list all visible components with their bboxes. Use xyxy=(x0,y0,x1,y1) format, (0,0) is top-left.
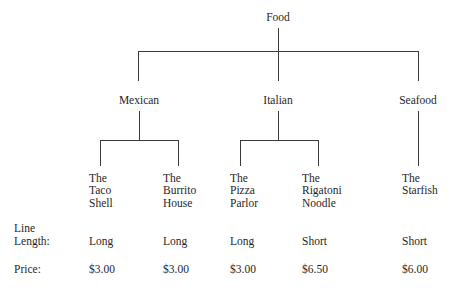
leaf-line: The xyxy=(230,172,258,184)
leaf-line: Burrito xyxy=(163,184,196,196)
leaf-line: House xyxy=(163,197,196,209)
row-label-line-length-line1: Line xyxy=(14,222,35,235)
leaf-line: Pizza xyxy=(230,184,258,196)
leaf-line: Shell xyxy=(89,197,113,209)
leaf-line: The xyxy=(402,172,438,184)
row-label-price: Price: xyxy=(14,263,41,276)
tree-node-mexican: Mexican xyxy=(119,95,159,107)
cell-line-length: Long xyxy=(230,235,254,248)
leaf-line: Noodle xyxy=(302,197,342,209)
cell-price: $3.00 xyxy=(163,263,189,276)
connector-drop-pizza-parlor xyxy=(240,140,241,166)
leaf-node-burrito-house: The Burrito House xyxy=(163,172,196,209)
leaf-line: The xyxy=(302,172,342,184)
cell-line-length: Long xyxy=(163,235,187,248)
leaf-line: Parlor xyxy=(230,197,258,209)
cell-price: $6.00 xyxy=(402,263,428,276)
connector-italian-bus xyxy=(240,140,319,141)
connector-mexican-stem xyxy=(139,111,140,141)
connector-drop-seafood xyxy=(418,51,419,81)
connector-italian-stem xyxy=(278,111,279,141)
cell-price: $6.50 xyxy=(302,263,328,276)
leaf-line: Starfish xyxy=(402,184,438,196)
connector-mexican-bus xyxy=(100,140,179,141)
leaf-line: Rigatoni xyxy=(302,184,342,196)
cell-line-length: Long xyxy=(89,235,113,248)
connector-drop-taco-shell xyxy=(100,140,101,166)
tree-node-root: Food xyxy=(266,12,290,24)
row-label-line-length-line2: Length: xyxy=(14,235,50,248)
connector-root-stem xyxy=(278,28,279,52)
diagram-canvas: Food Mexican Italian Seafood The Taco Sh… xyxy=(0,0,457,296)
connector-drop-mexican xyxy=(138,51,139,81)
connector-drop-italian xyxy=(278,51,279,81)
tree-node-italian: Italian xyxy=(263,95,292,107)
tree-node-seafood: Seafood xyxy=(399,95,437,107)
connector-drop-burrito-house xyxy=(178,140,179,166)
leaf-node-starfish: The Starfish xyxy=(402,172,438,197)
connector-drop-rigatoni-noodle xyxy=(318,140,319,166)
leaf-line: The xyxy=(89,172,113,184)
cell-line-length: Short xyxy=(402,235,427,248)
connector-seafood-stem xyxy=(418,111,419,166)
leaf-node-taco-shell: The Taco Shell xyxy=(89,172,113,209)
cell-price: $3.00 xyxy=(230,263,256,276)
leaf-line: The xyxy=(163,172,196,184)
leaf-node-rigatoni-noodle: The Rigatoni Noodle xyxy=(302,172,342,209)
leaf-node-pizza-parlor: The Pizza Parlor xyxy=(230,172,258,209)
cell-price: $3.00 xyxy=(89,263,115,276)
leaf-line: Taco xyxy=(89,184,113,196)
cell-line-length: Short xyxy=(302,235,327,248)
